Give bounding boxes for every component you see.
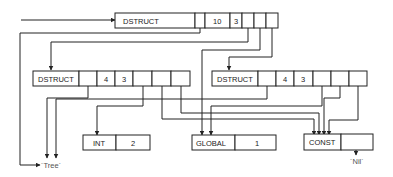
right-ptr-cell-5: [349, 71, 367, 86]
right-ptr-cell-0: [258, 71, 276, 86]
global-value: 1: [255, 139, 259, 148]
pointer-diagram: DSTRUCT 10 3 DSTRUCT 4 3 DSTRUCT 4 3 INT…: [0, 0, 393, 177]
edge-left-to-int: [97, 78, 143, 135]
const-ptr-cell: [341, 134, 373, 150]
node-right-dstruct: DSTRUCT 4 3: [212, 71, 367, 86]
top-ptr-cell-4: [254, 13, 266, 28]
int-value: 2: [131, 139, 135, 148]
top-ptr-cell-3: [242, 13, 254, 28]
left-ptr-cell-4: [152, 71, 171, 86]
left-ptr-cell-3: [133, 71, 152, 86]
edge-left-to-tree: [47, 78, 88, 158]
node-top-dstruct: DSTRUCT 10 3: [115, 13, 278, 28]
right-ptr-cell-3: [313, 71, 331, 86]
edge-right-ptr4-to-const: [324, 78, 340, 135]
left-value-3: 3: [122, 75, 126, 84]
top-value-10: 10: [213, 17, 221, 26]
left-value-4: 4: [104, 75, 108, 84]
right-value-4: 4: [283, 75, 287, 84]
node-const: CONST: [304, 134, 373, 150]
node-left-dstruct: DSTRUCT 4 3: [33, 71, 190, 86]
global-tag-label: GLOBAL: [196, 139, 226, 148]
node-global: GLOBAL 1: [192, 135, 276, 150]
right-tag-label: DSTRUCT: [217, 75, 253, 84]
top-value-3: 3: [234, 17, 238, 26]
int-tag-label: INT: [93, 139, 106, 148]
edge-right-ptr5-to-const: [329, 78, 358, 135]
left-ptr-cell-5: [171, 71, 190, 86]
tree-terminal-label: ´Tree´: [41, 161, 61, 170]
nil-terminal-label: ´Nil´: [350, 157, 364, 166]
right-ptr-cell-4: [331, 71, 349, 86]
top-ptr-cell-5: [266, 13, 278, 28]
top-tag-label: DSTRUCT: [123, 17, 159, 26]
const-tag-label: CONST: [309, 138, 336, 147]
left-tag-label: DSTRUCT: [38, 75, 74, 84]
node-int: INT 2: [83, 135, 150, 150]
top-ptr-cell-0: [195, 13, 205, 28]
right-value-3: 3: [301, 75, 305, 84]
left-ptr-cell-0: [79, 71, 97, 86]
